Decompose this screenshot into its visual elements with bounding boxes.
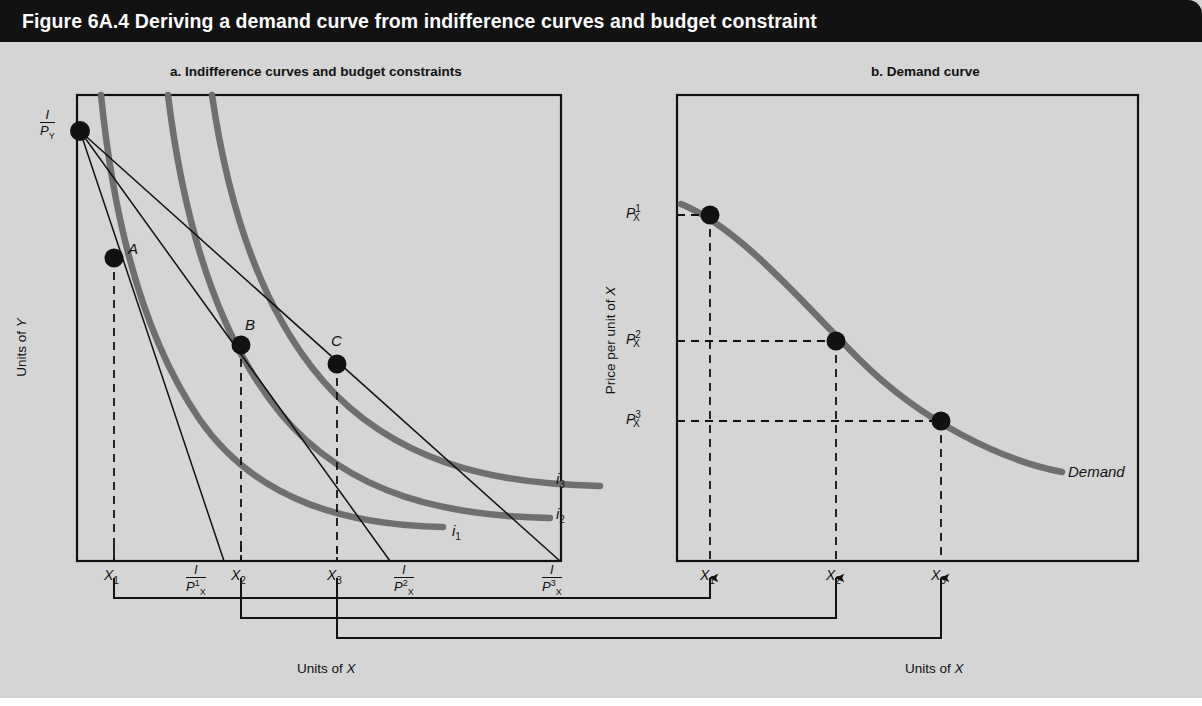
tangency-point-a	[105, 249, 124, 268]
demand-point-1	[701, 206, 720, 225]
y-intercept-denominator: PY	[40, 123, 55, 141]
page-bottom-strip	[0, 698, 1202, 706]
panel-a-tick-x3: X3	[327, 567, 342, 586]
panel-a-x-axis-caption: Units of X	[297, 661, 356, 676]
panel-b-tick-x2: X2	[826, 567, 841, 586]
budget-3-denominator: P3X	[542, 578, 562, 597]
panel-a-y-axis-caption: Units of Y	[14, 318, 29, 377]
panel-b-tick-p1: P1X	[626, 203, 648, 223]
budget-intercept-3: I P3X	[542, 563, 562, 597]
demand-curve	[681, 204, 1062, 472]
budget-2-denominator: P2X	[394, 578, 414, 597]
connector-x3	[337, 578, 941, 638]
point-label-c: C	[331, 332, 342, 349]
budget-intercept-2: I P2X	[394, 563, 414, 597]
curve-label-i1: i1	[452, 522, 461, 542]
y-intercept-fraction: I PY	[40, 108, 55, 141]
panel-b-tick-p2: P2X	[626, 329, 648, 349]
panel-b-y-axis-caption: Price per unit of X	[603, 287, 618, 394]
budget-3-numerator: I	[542, 563, 562, 578]
panel-a-tick-x1: X1	[104, 567, 119, 586]
budget-2-numerator: I	[394, 563, 414, 578]
curve-label-i3: i3	[556, 470, 565, 490]
demand-point-2	[827, 332, 846, 351]
indifference-curve-i3	[212, 95, 600, 486]
budget-1-denominator: P1X	[186, 578, 206, 597]
indifference-curve-i1	[101, 95, 443, 527]
figure-container: Figure 6A.4 Deriving a demand curve from…	[0, 0, 1202, 706]
budget-1-numerator: I	[186, 563, 206, 578]
panel-b-tick-p3: P3X	[626, 409, 648, 429]
demand-point-3	[932, 412, 951, 431]
curve-label-i2: i2	[556, 505, 565, 525]
budget-intercept-1: I P1X	[186, 563, 206, 597]
demand-curve-label: Demand	[1068, 463, 1125, 480]
point-label-a: A	[128, 240, 138, 257]
y-intercept-numerator: I	[40, 108, 55, 123]
tangency-point-b	[232, 336, 251, 355]
panel-b-x-axis-caption: Units of X	[905, 661, 964, 676]
tangency-point-c	[328, 355, 347, 374]
panel-b-tick-x3: X3	[931, 567, 946, 586]
figure-graphics	[0, 0, 1202, 706]
panel-b-tick-x1: X1	[700, 567, 715, 586]
panel-b-frame	[677, 95, 1138, 561]
y-intercept-point	[70, 121, 90, 141]
point-label-b: B	[245, 316, 255, 333]
panel-a-tick-x2: X2	[231, 567, 246, 586]
